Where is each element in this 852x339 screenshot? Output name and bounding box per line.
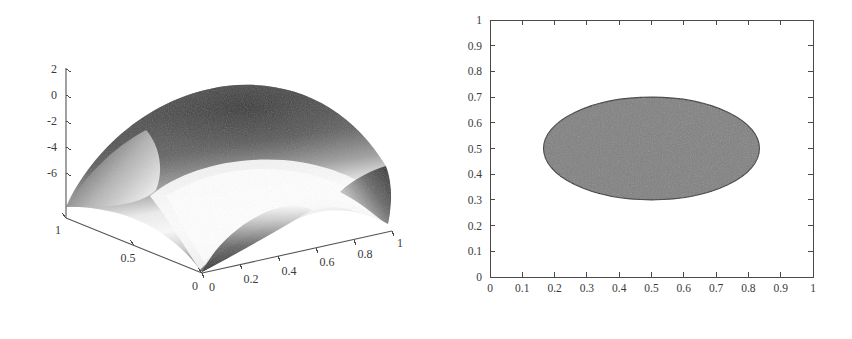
x-tick-label-0-3: 0.3 (580, 282, 595, 294)
figure-root: 2 0 -2 -4 -6 1 0.5 0 (0, 0, 852, 339)
x-tick-label-0: 0 (487, 282, 493, 294)
x-axis-ticks (490, 271, 813, 277)
x-tick-label-0-6: 0.6 (320, 255, 335, 269)
surface-mesh (66, 76, 391, 272)
x-tick-label-0: 0 (209, 280, 215, 294)
y-tick-label-1: 1 (55, 223, 61, 237)
z-tick-label-3: -4 (47, 140, 57, 154)
y-tick-label-0-6: 0.6 (468, 117, 483, 129)
y-tick-label-0-7: 0.7 (468, 91, 483, 103)
z-tick-label-1: 0 (51, 88, 57, 102)
top-axis-ticks (522, 20, 780, 25)
y-tick-label-0-4: 0.4 (468, 168, 483, 180)
x-tick-label-0-6: 0.6 (677, 282, 692, 294)
x-tick-label-0-2: 0.2 (244, 272, 259, 286)
y-tick-label-0: 0 (192, 279, 198, 293)
y-tick-label-0-1: 0.1 (468, 245, 483, 257)
right-axis-ticks (808, 46, 813, 252)
x-tick-label-0-7: 0.7 (709, 282, 724, 294)
x-tick-label-0-5: 0.5 (644, 282, 659, 294)
z-tick-label-2: -2 (47, 114, 57, 128)
x-tick-label-1: 1 (810, 282, 816, 294)
x-tick-label-0-9: 0.9 (774, 282, 789, 294)
x-tick-label-1: 1 (397, 236, 403, 250)
x-tick-label-0-8: 0.8 (358, 247, 373, 261)
x-tick-label-0-2: 0.2 (547, 282, 562, 294)
x-tick-label-0-8: 0.8 (741, 282, 756, 294)
y-tick-label-1: 1 (476, 14, 482, 26)
y-tick-label-0-8: 0.8 (468, 65, 483, 77)
region-plot-panel: 0 0.1 0.2 0.3 0.4 0.5 0.6 0.7 0.8 0.9 1 … (426, 0, 852, 339)
y-tick-label-0-5: 0.5 (468, 143, 483, 155)
x-tick-label-0-4: 0.4 (612, 282, 627, 294)
region-shape-group (544, 97, 760, 200)
x-tick-label-0-4: 0.4 (282, 264, 297, 278)
region-plot-svg: 0 0.1 0.2 0.3 0.4 0.5 0.6 0.7 0.8 0.9 1 … (426, 0, 852, 339)
y-tick-label-0-9: 0.9 (468, 40, 483, 52)
y-tick-label-0: 0 (476, 271, 482, 283)
x-tick-labels: 0 0.1 0.2 0.3 0.4 0.5 0.6 0.7 0.8 0.9 1 (487, 282, 816, 294)
filled-ellipse (544, 97, 760, 200)
surface-plot-panel: 2 0 -2 -4 -6 1 0.5 0 (0, 0, 426, 339)
y-tick-label-0-2: 0.2 (468, 220, 483, 232)
z-tick-label-0: 2 (51, 62, 57, 76)
y-tick-labels: 0 0.1 0.2 0.3 0.4 0.5 0.6 0.7 0.8 0.9 1 (468, 14, 483, 283)
z-tick-label-4: -6 (47, 166, 57, 180)
surface-plot-svg: 2 0 -2 -4 -6 1 0.5 0 (0, 0, 426, 339)
z-axis-ticks (66, 69, 71, 176)
y-tick-label-0-5: 0.5 (121, 251, 136, 265)
y-axis-ticks (490, 20, 496, 277)
y-tick-label-0-3: 0.3 (468, 194, 483, 206)
x-tick-label-0-1: 0.1 (515, 282, 530, 294)
